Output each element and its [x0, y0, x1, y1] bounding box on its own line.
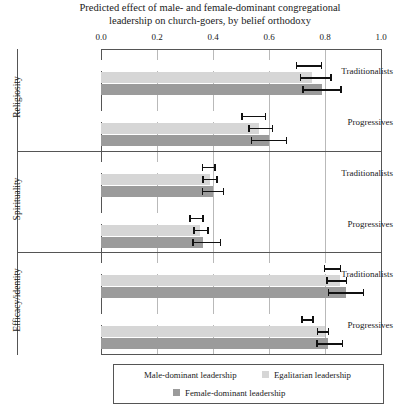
bar-male	[101, 111, 254, 122]
bar-female	[101, 237, 203, 248]
category-label-progressives: Progressives	[319, 219, 397, 229]
bar-male	[101, 162, 209, 173]
error-bar-cap-high	[207, 227, 209, 234]
legend-row-2: Female-dominant leadership	[114, 385, 385, 402]
error-bar-cap-high	[312, 316, 314, 323]
x-tick-label-0.0: 0.0	[81, 32, 121, 42]
panel-separator	[17, 252, 382, 253]
error-bar-cap-low	[241, 113, 243, 120]
error-bar-line	[296, 65, 323, 67]
chart-title: Predicted effect of male- and female-dom…	[40, 1, 380, 27]
error-bar-egal	[248, 125, 273, 132]
legend-item-male-dominant[interactable]: Male-dominant leadership	[132, 367, 237, 384]
error-bar-cap-high	[265, 113, 267, 120]
bar-female	[101, 84, 322, 95]
group-label-text: Efficacy/identity	[12, 268, 22, 332]
bar-male	[101, 60, 307, 71]
legend-item-egalitarian[interactable]: Egalitarian leadership	[262, 367, 351, 384]
error-bar-cap-low	[202, 176, 204, 183]
error-bar-cap-high	[330, 74, 332, 81]
error-bar-cap-low	[326, 277, 328, 284]
error-bar-male	[189, 215, 204, 222]
chart-title-line-2: leadership on church-goers, by belief or…	[40, 14, 380, 27]
legend-swatch-female-dominant	[173, 389, 180, 396]
x-tick-label-0.4: 0.4	[193, 32, 233, 42]
error-bar-cap-high	[223, 188, 225, 195]
legend-item-female-dominant[interactable]: Female-dominant leadership	[173, 385, 285, 402]
error-bar-cap-high	[342, 340, 344, 347]
bar-female	[101, 135, 269, 146]
error-bar-egal	[202, 176, 218, 183]
error-bar-female	[192, 239, 221, 246]
chart-container: Predicted effect of male- and female-dom…	[0, 0, 397, 412]
x-tick-label-0.8: 0.8	[305, 32, 345, 42]
error-bar-cap-low	[193, 227, 195, 234]
error-bar-female	[328, 289, 364, 296]
error-bar-cap-high	[272, 125, 274, 132]
error-bar-male	[324, 265, 342, 272]
category-label-traditionalists: Traditionalists	[319, 168, 397, 178]
error-bar-cap-low	[302, 86, 304, 93]
error-bar-line	[328, 292, 364, 294]
error-bar-female	[302, 86, 342, 93]
error-bar-cap-low	[202, 188, 204, 195]
error-bar-egal	[317, 328, 330, 335]
category-label-progressives: Progressives	[319, 117, 397, 127]
legend-label-male-dominant: Male-dominant leadership	[144, 370, 237, 380]
error-bar-line	[192, 242, 221, 244]
group-label-text: Spirituality	[12, 177, 22, 220]
legend-label-egalitarian: Egalitarian leadership	[274, 370, 351, 380]
error-bar-line	[251, 140, 287, 142]
error-bar-cap-low	[316, 340, 318, 347]
error-bar-cap-low	[328, 289, 330, 296]
bar-female	[101, 338, 328, 349]
bar-male	[101, 213, 199, 224]
legend-swatch-male-dominant	[132, 371, 139, 378]
bar-female	[101, 287, 346, 298]
error-bar-male	[296, 62, 323, 69]
error-bar-cap-low	[301, 316, 303, 323]
group-label-religiosity: Religiosity	[0, 92, 67, 102]
error-bar-cap-low	[324, 265, 326, 272]
error-bar-male	[301, 316, 314, 323]
bar-male	[101, 263, 336, 274]
error-bar-cap-low	[317, 328, 319, 335]
error-bar-cap-high	[216, 176, 218, 183]
group-label-efficacy-identity: Efficacy/identity	[0, 295, 67, 305]
bar-egal	[101, 326, 325, 337]
legend-row-1: Male-dominant leadership Egalitarian lea…	[114, 367, 385, 384]
gridline-0.8	[325, 49, 326, 355]
error-bar-line	[316, 343, 343, 345]
error-bar-cap-low	[192, 239, 194, 246]
error-bar-egal	[300, 74, 332, 81]
bar-egal	[101, 72, 312, 83]
error-bar-cap-low	[189, 215, 191, 222]
error-bar-cap-high	[340, 86, 342, 93]
group-label-spirituality: Spirituality	[0, 194, 67, 204]
x-tick-label-0.2: 0.2	[137, 32, 177, 42]
bar-egal	[101, 123, 259, 134]
error-bar-line	[300, 77, 332, 79]
error-bar-cap-low	[300, 74, 302, 81]
error-bar-female	[202, 188, 224, 195]
bar-egal	[101, 225, 200, 236]
category-label-progressives: Progressives	[319, 320, 397, 330]
error-bar-cap-low	[251, 137, 253, 144]
error-bar-cap-high	[346, 277, 348, 284]
error-bar-cap-high	[202, 215, 204, 222]
plot-frame-bottom	[101, 354, 382, 355]
error-bar-line	[248, 128, 273, 130]
error-bar-line	[302, 89, 342, 91]
error-bar-female	[316, 340, 343, 347]
x-axis-tick-labels: 0.00.20.40.60.81.0	[0, 32, 397, 45]
gridline-1.0	[381, 49, 382, 355]
chart-legend: Male-dominant leadership Egalitarian lea…	[113, 364, 384, 404]
panel-separator	[17, 151, 382, 152]
x-tick-label-0.6: 0.6	[249, 32, 289, 42]
x-tick-label-1.0: 1.0	[361, 32, 397, 42]
error-bar-cap-high	[214, 164, 216, 171]
error-bar-line	[326, 280, 347, 282]
bar-female	[101, 186, 213, 197]
error-bar-cap-high	[321, 62, 323, 69]
error-bar-cap-low	[202, 164, 204, 171]
